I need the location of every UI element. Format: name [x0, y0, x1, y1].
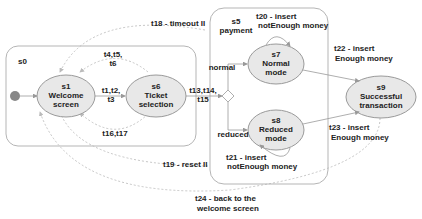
transition-t16-t17	[80, 113, 148, 129]
state-s8-reduced-mode: s8 Reduced mode	[248, 110, 304, 150]
transition-t18	[60, 25, 205, 72]
svg-text:s9: s9	[377, 83, 386, 92]
region-s0-label: s0	[18, 57, 27, 66]
svg-text:mode: mode	[265, 68, 287, 77]
label-normal: normal	[209, 63, 236, 72]
label-t4-t6-line1: t4,t5,	[104, 50, 123, 59]
label-t20-line1: t20 - insert	[256, 12, 297, 21]
label-t24-line2: welcome screen	[196, 204, 259, 213]
region-s5-label: s5	[232, 17, 241, 26]
label-t1-t3-line1: t1,t2,	[102, 86, 121, 95]
initial-state-dot	[10, 91, 20, 101]
svg-text:s1: s1	[62, 82, 71, 91]
svg-text:s7: s7	[272, 50, 281, 59]
label-t24-line1: t24 - back to the	[195, 194, 256, 203]
state-diagram: s0 s5 payment s1 Welcome screen s6 Ticke…	[0, 0, 422, 219]
label-t1-t3-line2: t3	[107, 95, 115, 104]
label-t4-t6-line2: t6	[109, 59, 117, 68]
label-t13-t15-line2: t15	[197, 95, 209, 104]
label-t19: t19 - reset II	[163, 160, 207, 169]
svg-text:s6: s6	[152, 82, 161, 91]
choice-reduced-branch	[228, 102, 247, 130]
label-reduced: reduced	[217, 130, 248, 139]
svg-text:s8: s8	[272, 116, 281, 125]
svg-text:screen: screen	[53, 100, 79, 109]
svg-text:selection: selection	[139, 100, 174, 109]
label-t21-line1: t21 - insert	[226, 153, 267, 162]
svg-text:Welcome: Welcome	[49, 91, 85, 100]
label-t13-t15-line1: t13,t14,	[189, 86, 217, 95]
label-t23-line2: Enough money	[331, 133, 389, 142]
state-s9-successful-transaction: s9 Successful transaction	[346, 76, 416, 118]
state-s6-ticket-selection: s6 Ticket selection	[126, 75, 186, 117]
transition-t19	[60, 112, 208, 166]
state-s7-normal-mode: s7 Normal mode	[248, 44, 304, 84]
svg-text:Reduced: Reduced	[259, 125, 293, 134]
label-t23-line1: t23 - insert	[329, 123, 370, 132]
label-t20-line2: notEnough money	[258, 21, 329, 30]
label-t22-line2: Enough money	[335, 54, 393, 63]
choice-diamond	[222, 90, 234, 102]
transition-t22	[303, 70, 359, 81]
svg-text:Successful: Successful	[360, 92, 402, 101]
svg-text:Ticket: Ticket	[145, 91, 168, 100]
label-t21-line2: notEnough money	[227, 162, 298, 171]
label-t22-line1: t22 - insert	[334, 44, 375, 53]
label-t16-t17: t16,t17	[102, 129, 128, 138]
region-s5-sublabel: payment	[220, 26, 253, 35]
svg-text:Normal: Normal	[262, 59, 290, 68]
svg-text:mode: mode	[265, 134, 287, 143]
label-t18: t18 - timeout II	[151, 19, 205, 28]
svg-text:transaction: transaction	[359, 101, 402, 110]
state-s1-welcome-screen: s1 Welcome screen	[37, 75, 95, 117]
